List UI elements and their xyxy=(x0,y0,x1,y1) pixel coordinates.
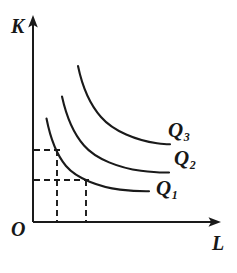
curve-label-q3-base: Q xyxy=(168,118,183,142)
curve-label-q3-subscript: 3 xyxy=(184,130,190,144)
figure-canvas xyxy=(0,0,237,273)
isoquant-curve-q1 xyxy=(47,119,150,192)
isoquant-figure: K L O Q3 Q2 Q1 xyxy=(0,0,237,273)
curve-label-q1-base: Q xyxy=(156,176,171,200)
isoquant-curve-q2 xyxy=(62,97,169,173)
isoquant-curve-q3 xyxy=(78,66,170,144)
y-axis-label: K xyxy=(11,16,24,36)
curve-label-q1-subscript: 1 xyxy=(172,188,178,202)
origin-label: O xyxy=(11,219,25,239)
curve-label-q2-base: Q xyxy=(174,146,189,170)
curve-label-q1: Q1 xyxy=(156,178,178,201)
curve-label-q2: Q2 xyxy=(174,148,196,171)
x-axis-label: L xyxy=(212,233,224,253)
curve-label-q3: Q3 xyxy=(168,120,190,143)
curve-label-q2-subscript: 2 xyxy=(190,158,196,172)
